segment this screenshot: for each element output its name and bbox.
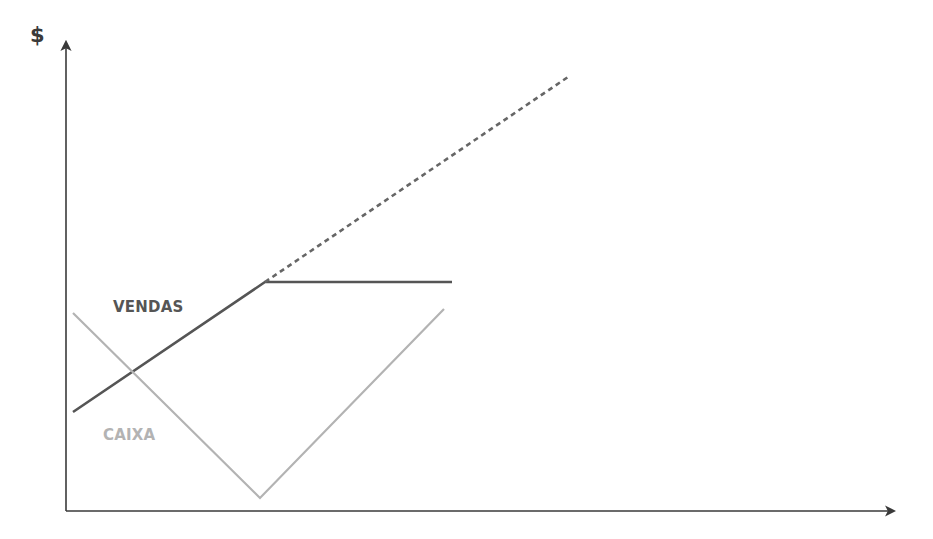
y-axis-label: $	[30, 23, 45, 47]
vendas-label: VENDAS	[113, 298, 183, 316]
vendas-projection-dashed-line	[265, 77, 568, 282]
chart-canvas	[0, 0, 933, 539]
caixa-line	[73, 309, 444, 498]
caixa-label: CAIXA	[103, 426, 155, 444]
